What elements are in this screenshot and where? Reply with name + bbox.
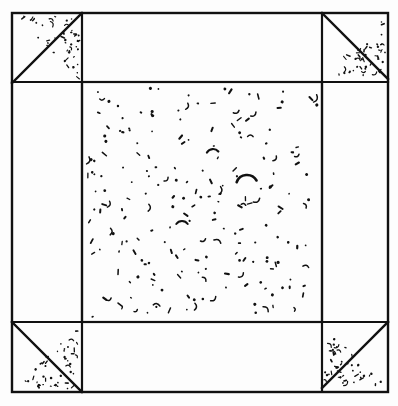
technical-drawing-svg (0, 0, 398, 406)
stipple-mark (152, 284, 154, 286)
stipple-mark (362, 74, 363, 76)
stipple-mark (289, 285, 291, 289)
stipple-mark (238, 242, 241, 244)
stipple-mark (282, 91, 284, 93)
stipple-mark (245, 196, 246, 201)
stipple-mark (74, 347, 76, 352)
stipple-mark (296, 245, 298, 250)
figure-root (0, 0, 398, 406)
stipple-mark (65, 382, 69, 384)
stipple-mark (70, 32, 72, 34)
stipple-mark (87, 172, 88, 178)
stipple-mark (71, 353, 75, 355)
stipple-mark (67, 346, 69, 348)
stipple-mark (276, 261, 279, 264)
stipple-mark (99, 209, 101, 214)
stipple-mark (276, 107, 281, 109)
stipple-mark (73, 33, 77, 35)
stipple-mark (54, 385, 57, 386)
stipple-mark (254, 311, 257, 314)
stipple-mark (197, 102, 200, 104)
stipple-mark (375, 383, 377, 386)
stipple-mark (75, 330, 79, 332)
stipple-mark (356, 52, 360, 53)
stipple-mark (45, 378, 46, 382)
stipple-mark (117, 269, 119, 276)
